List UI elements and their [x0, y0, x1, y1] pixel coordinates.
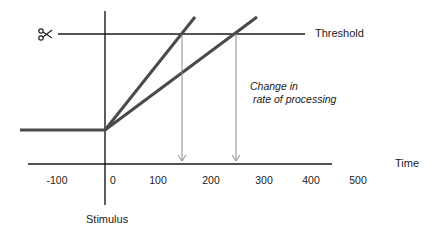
fast-crossing-arrow	[178, 34, 186, 161]
slow-crossing-arrow	[232, 34, 240, 161]
threshold-label: Threshold	[315, 27, 364, 39]
tick-label: 300	[255, 174, 273, 186]
tick-label: 400	[302, 174, 320, 186]
tick-label: 500	[349, 174, 367, 186]
tick-label: 200	[202, 174, 220, 186]
annotation-line-1: Change in	[250, 80, 298, 92]
x-axis-label: Time	[395, 157, 419, 169]
tick-label: 100	[149, 174, 167, 186]
annotation-line-2: rate of processing	[253, 93, 336, 105]
accumulator-diagram	[0, 0, 442, 233]
tick-label: 0	[110, 174, 116, 186]
scissors-icon	[39, 29, 52, 40]
tick-label: -100	[46, 174, 67, 186]
stimulus-label: Stimulus	[86, 213, 128, 225]
